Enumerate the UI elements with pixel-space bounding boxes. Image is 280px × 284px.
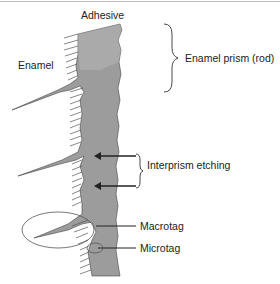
microtag-label: Microtag (140, 243, 180, 254)
adhesive-label: Adhesive (81, 10, 124, 21)
enamel-prism-label: Enamel prism (rod) (185, 53, 274, 64)
macrotag-label: Macrotag (140, 221, 184, 232)
enamel-prism-brace (164, 24, 178, 92)
interprism-etching-label: Interprism etching (147, 160, 230, 171)
enamel-label: Enamel (18, 60, 54, 71)
